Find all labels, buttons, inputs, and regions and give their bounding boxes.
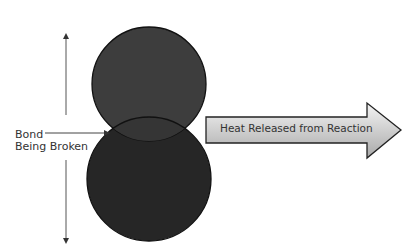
heat-arrow-label: Heat Released from Reaction <box>220 122 373 134</box>
bond-label-line2: Being Broken <box>15 141 88 153</box>
bond-diagram: Bond Being Broken Heat Released from Rea… <box>0 0 415 251</box>
bond-being-broken-label: Bond Being Broken <box>15 129 88 153</box>
